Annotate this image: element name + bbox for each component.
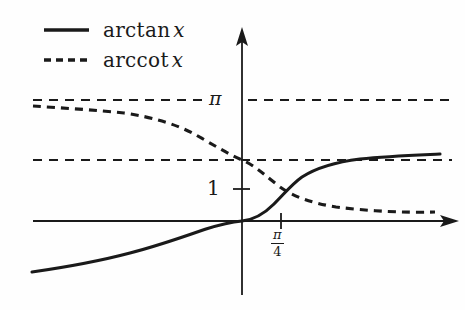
fraction-quarter-pi: π 4 bbox=[271, 228, 284, 258]
legend-label-arctan: arctanx bbox=[103, 20, 185, 40]
asymptote-pi-label: π bbox=[209, 89, 222, 108]
fraction-numerator: π bbox=[271, 228, 284, 242]
legend-label-arctan-text: arctan bbox=[103, 18, 170, 42]
figure-arctan-arccot: arctanx arccotx π 1 π 4 bbox=[0, 0, 465, 310]
y-tick-label-one: 1 bbox=[207, 178, 220, 198]
legend-label-arccot: arccotx bbox=[103, 50, 183, 70]
curve-arctan bbox=[32, 154, 440, 272]
fraction-denominator: 4 bbox=[271, 245, 284, 259]
legend-label-arccot-variable: x bbox=[169, 48, 184, 72]
x-tick-label-quarter-pi: π 4 bbox=[271, 228, 284, 258]
legend-label-arctan-variable: x bbox=[170, 18, 185, 42]
plot-canvas bbox=[0, 0, 465, 310]
legend-label-arccot-text: arccot bbox=[103, 48, 169, 72]
